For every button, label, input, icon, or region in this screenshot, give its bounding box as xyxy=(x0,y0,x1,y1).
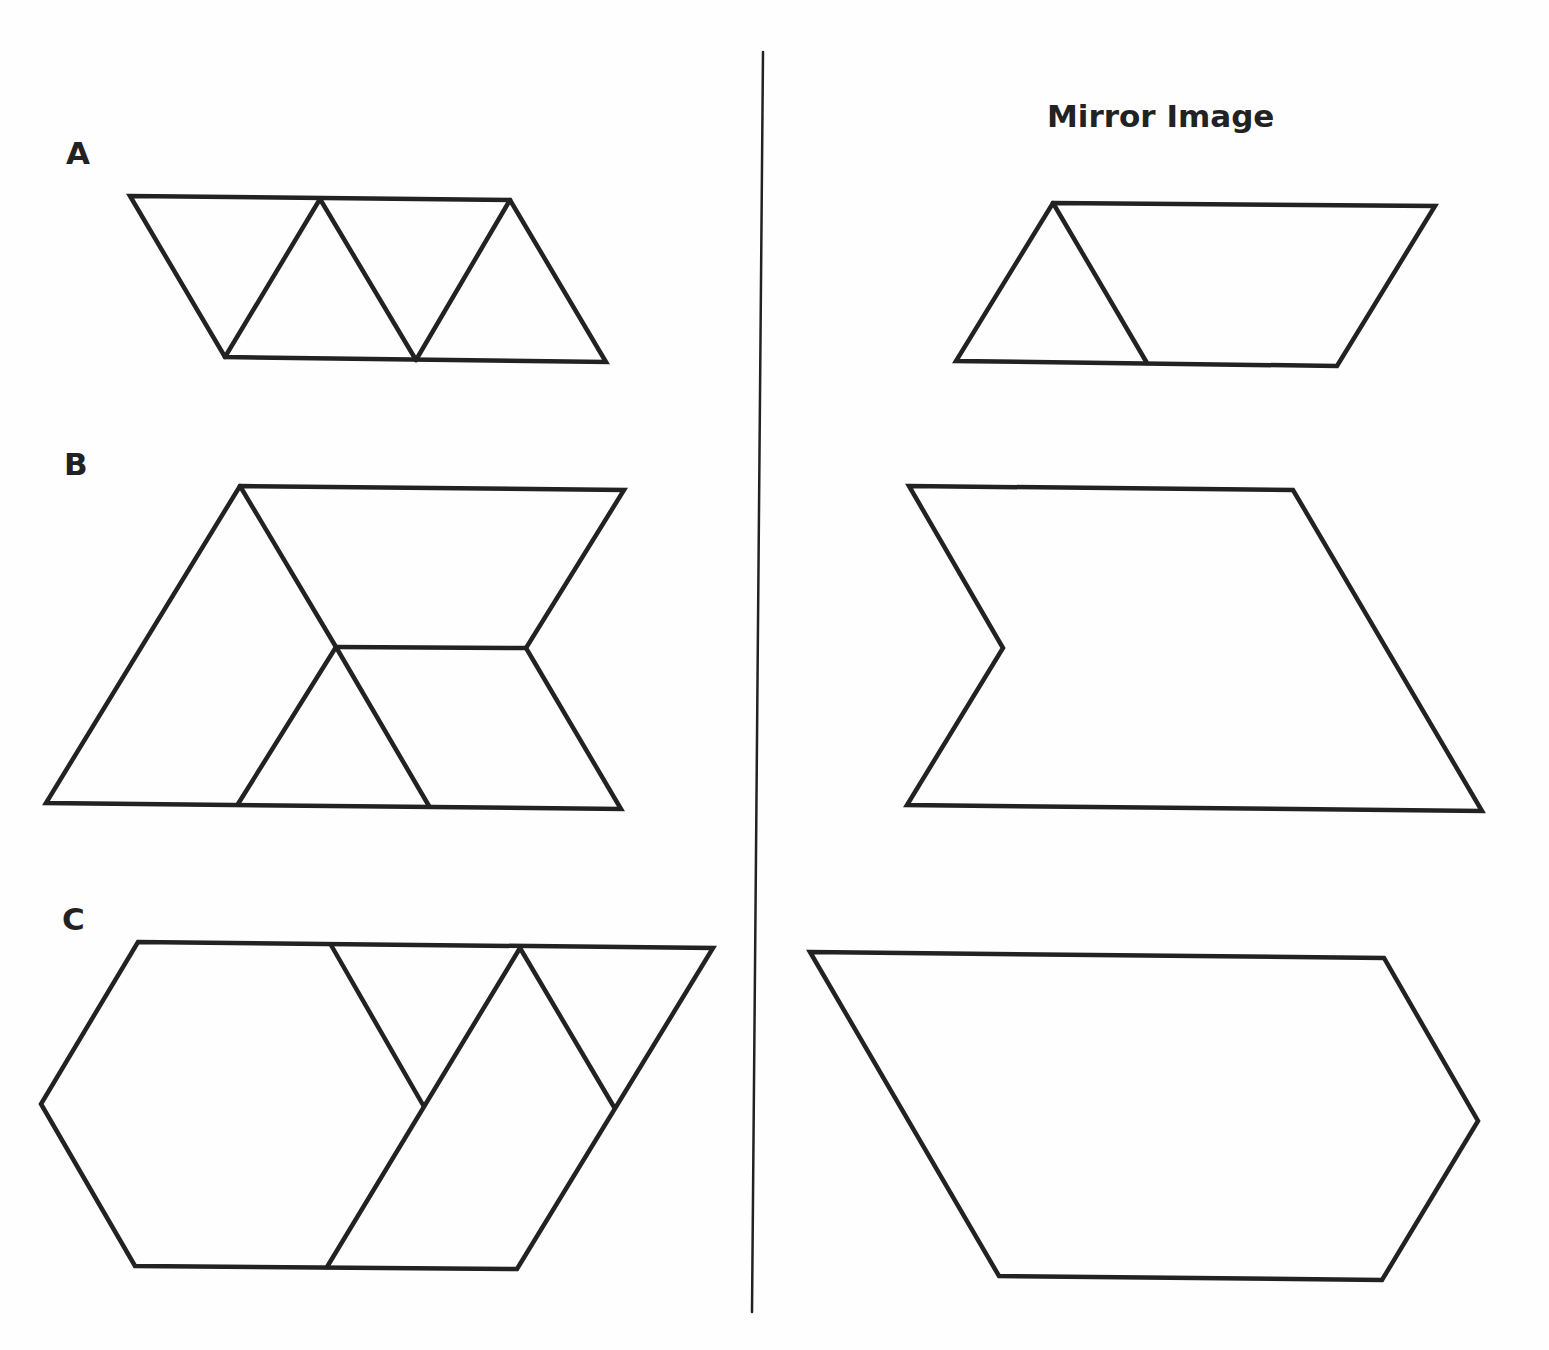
mirror-line-divider xyxy=(752,52,763,1312)
worksheet-page: A B C Mirror Image xyxy=(0,0,1549,1350)
shape-c-edge xyxy=(327,948,520,1267)
shape-c-edge xyxy=(331,945,423,1105)
shape-b-edge xyxy=(336,647,429,806)
shape-b-edge xyxy=(238,647,336,804)
shape-a-original xyxy=(130,196,606,362)
shape-a-edge xyxy=(320,199,416,360)
shape-a-edge xyxy=(225,199,320,357)
shape-b-mirror-outline xyxy=(907,486,1482,811)
shape-a-mirror-edge xyxy=(1053,203,1147,363)
shapes-canvas xyxy=(0,0,1549,1350)
shape-c-mirror xyxy=(810,952,1478,1280)
shape-a-mirror xyxy=(956,203,1435,366)
shape-b-edge xyxy=(240,486,336,647)
shape-a-edge xyxy=(416,200,510,360)
shape-c-original xyxy=(41,942,713,1269)
shape-b-original xyxy=(46,486,624,809)
shape-c-mirror-outline xyxy=(810,952,1478,1280)
shape-c-edge xyxy=(520,948,614,1107)
shape-b-mirror xyxy=(907,486,1482,811)
shape-b-edge xyxy=(336,647,526,648)
shape-a-mirror-outline xyxy=(956,203,1435,366)
